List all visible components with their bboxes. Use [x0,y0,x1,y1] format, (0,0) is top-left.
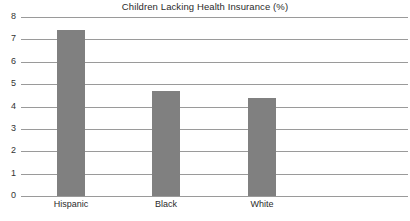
y-axis-tick-label: 0 [0,191,16,200]
plot-area [21,17,408,196]
y-axis-tick-label: 3 [0,124,16,133]
y-axis-tick-label: 5 [0,79,16,88]
bar [152,91,180,196]
x-axis-label-white: White [214,200,310,209]
gridline [21,196,408,197]
y-axis-tick-label: 6 [0,57,16,66]
chart-title: Children Lacking Health Insurance (%) [0,1,410,12]
bar [248,98,276,196]
y-axis-tick-label: 2 [0,146,16,155]
chart-screenshot: Children Lacking Health Insurance (%) 01… [0,0,410,221]
y-axis-tick-label: 7 [0,34,16,43]
y-axis-tick-label: 8 [0,12,16,21]
x-axis-label-hispanic: Hispanic [23,200,119,209]
bar [57,30,85,196]
gridline [21,17,408,18]
y-axis-tick-label: 1 [0,169,16,178]
x-axis-label-black: Black [118,200,214,209]
y-axis-tick-label: 4 [0,102,16,111]
